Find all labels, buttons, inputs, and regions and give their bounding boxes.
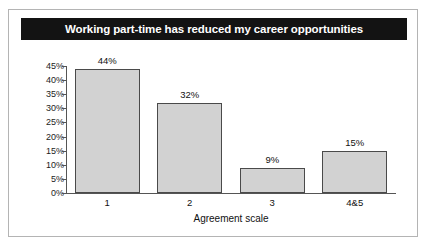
x-axis-tick-label: 3 <box>270 197 275 208</box>
y-axis-tick-mark <box>62 193 66 194</box>
bar-value-label: 32% <box>180 89 199 100</box>
x-axis-tick-label: 2 <box>187 197 192 208</box>
y-axis-tick-mark <box>62 66 66 67</box>
y-axis-tick-mark <box>62 80 66 81</box>
y-axis-tick-label: 45% <box>24 61 64 71</box>
bar-value-label: 15% <box>345 137 364 148</box>
bar <box>157 103 222 193</box>
plot-area: Working part-time has reduced my career … <box>9 10 419 238</box>
y-axis-tick-mark <box>62 137 66 138</box>
bar-value-label: 9% <box>265 154 279 165</box>
y-axis-tick-mark <box>62 151 66 152</box>
y-axis-tick-label: 20% <box>24 132 64 142</box>
x-axis-tick-label: 1 <box>105 197 110 208</box>
y-axis-tick-mark <box>62 179 66 180</box>
y-axis-tick-label: 5% <box>24 174 64 184</box>
chart-title-bar: Working part-time has reduced my career … <box>21 18 407 40</box>
x-axis-title: Agreement scale <box>66 213 396 224</box>
y-axis-tick-label: 40% <box>24 75 64 85</box>
bar <box>240 168 305 193</box>
y-axis-tick-mark <box>62 94 66 95</box>
y-axis-line <box>66 66 67 194</box>
chart-title: Working part-time has reduced my career … <box>65 23 363 35</box>
bar <box>75 69 140 193</box>
chart-figure: Working part-time has reduced my career … <box>8 9 418 237</box>
bar-value-label: 44% <box>98 55 117 66</box>
y-axis-tick-label: 15% <box>24 146 64 156</box>
y-axis-tick-label: 10% <box>24 160 64 170</box>
y-axis-tick-label: 25% <box>24 117 64 127</box>
y-axis-tick-label: 0% <box>24 188 64 198</box>
bar <box>322 151 387 193</box>
y-axis-tick-mark <box>62 108 66 109</box>
x-axis-tick-label: 4&5 <box>346 197 363 208</box>
y-axis-tick-label: 30% <box>24 103 64 113</box>
y-axis-tick-mark <box>62 122 66 123</box>
y-axis-tick-mark <box>62 165 66 166</box>
x-axis-line <box>66 193 396 194</box>
y-axis-tick-label: 35% <box>24 89 64 99</box>
